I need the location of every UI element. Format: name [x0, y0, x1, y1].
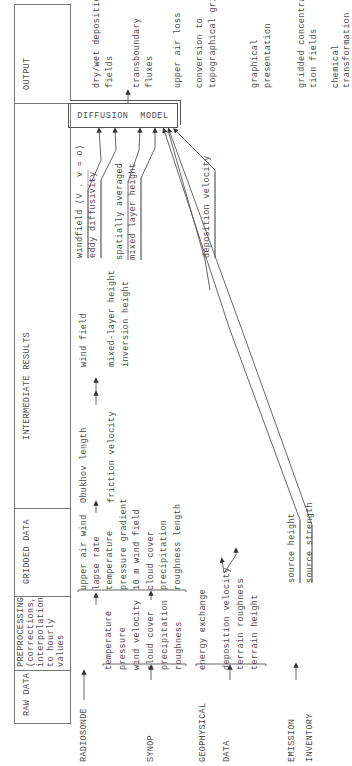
bracket-geophysical [196, 664, 266, 666]
bracket-synop [103, 664, 186, 666]
bracket-gridded [78, 590, 186, 592]
arrow-windfield [88, 130, 101, 258]
arrow-eddy-diffusivity [101, 130, 116, 258]
arrow-source-height [164, 130, 300, 583]
arrow-source-strength [169, 130, 312, 583]
arrow-geo-grid-b [222, 560, 224, 573]
line-deposition-feed [168, 130, 210, 290]
arrow-geo-grid-a [224, 550, 236, 573]
arrow-spatially-averaged [128, 130, 140, 260]
connector-lines [0, 0, 352, 766]
arrow-mixed-layer-height [141, 130, 155, 260]
